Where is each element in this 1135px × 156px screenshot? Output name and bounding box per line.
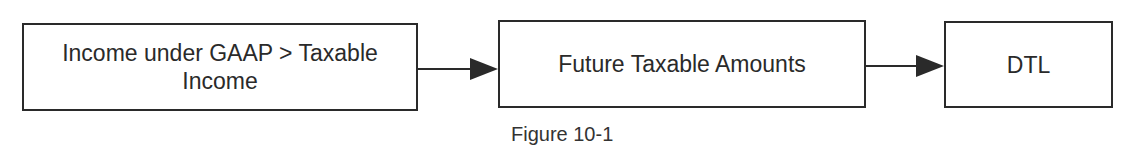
- node-label: Future Taxable Amounts: [558, 50, 806, 78]
- arrowhead-icon: [916, 55, 944, 77]
- arrowhead-icon: [470, 58, 498, 80]
- node-income-under-gaap: Income under GAAP > Taxable Income: [22, 23, 418, 111]
- node-dtl: DTL: [944, 21, 1113, 108]
- arrow-future-to-dtl: [865, 55, 944, 77]
- node-label: DTL: [1007, 51, 1050, 79]
- arrow-income-to-future: [417, 58, 498, 80]
- node-label-line1: Income under GAAP > Taxable: [62, 39, 378, 67]
- figure-caption: Figure 10-1: [511, 123, 613, 146]
- node-future-taxable-amounts: Future Taxable Amounts: [498, 20, 866, 108]
- node-label-line2: Income: [62, 67, 378, 95]
